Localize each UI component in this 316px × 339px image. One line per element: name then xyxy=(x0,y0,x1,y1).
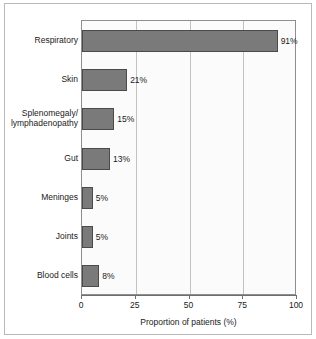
bar xyxy=(82,187,93,209)
category-label: Meninges xyxy=(8,192,78,202)
bar-value-label: 5% xyxy=(96,232,108,242)
gridline-75 xyxy=(243,21,244,294)
bar xyxy=(82,108,114,130)
x-tick-label: 75 xyxy=(238,300,247,310)
x-tick-25 xyxy=(135,295,136,299)
x-tick-label: 0 xyxy=(79,300,84,310)
x-tick-50 xyxy=(189,295,190,299)
category-label: Splenomegaly/ lymphadenopathy xyxy=(8,108,78,128)
x-tick-label: 100 xyxy=(289,300,303,310)
category-label: Skin xyxy=(8,74,78,84)
x-tick-label: 25 xyxy=(130,300,139,310)
gridline-25 xyxy=(136,21,137,294)
bar xyxy=(82,226,93,248)
x-tick-label: 50 xyxy=(184,300,193,310)
x-tick-0 xyxy=(81,295,82,299)
category-label: Gut xyxy=(8,153,78,163)
bar-value-label: 21% xyxy=(130,75,147,85)
bar-value-label: 15% xyxy=(117,114,134,124)
category-label: Joints xyxy=(8,231,78,241)
bar xyxy=(82,30,278,52)
bar xyxy=(82,69,127,91)
bar xyxy=(82,148,110,170)
figure: RespiratorySkinSplenomegaly/ lymphadenop… xyxy=(0,0,316,339)
gridline-50 xyxy=(190,21,191,294)
x-tick-100 xyxy=(296,295,297,299)
bar xyxy=(82,265,99,287)
bar-value-label: 5% xyxy=(96,193,108,203)
plot-area: 91%21%15%13%5%5%8% xyxy=(81,20,296,295)
bar-value-label: 13% xyxy=(113,154,130,164)
category-label: Respiratory xyxy=(8,35,78,45)
x-axis-title: Proportion of patients (%) xyxy=(81,317,296,327)
x-tick-75 xyxy=(242,295,243,299)
bar-value-label: 91% xyxy=(281,36,298,46)
bar-value-label: 8% xyxy=(102,271,114,281)
category-label-column: RespiratorySkinSplenomegaly/ lymphadenop… xyxy=(8,20,78,295)
category-label: Blood cells xyxy=(8,270,78,280)
